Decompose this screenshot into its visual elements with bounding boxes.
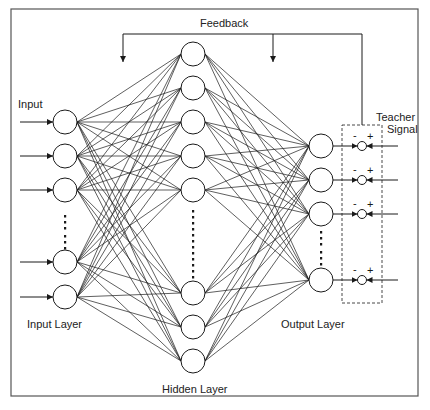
input-node <box>53 285 77 309</box>
output-node <box>309 168 333 192</box>
input-ellipsis <box>64 235 66 238</box>
hidden-ellipsis <box>192 234 194 237</box>
hidden-output-connection <box>205 280 309 293</box>
input-node <box>53 250 77 274</box>
hidden-ellipsis <box>192 270 194 273</box>
output-ellipsis <box>320 231 322 234</box>
hidden-ellipsis <box>192 276 194 279</box>
hidden-ellipsis <box>192 228 194 231</box>
neural-network-diagram: -+-+-+-+ <box>0 0 430 410</box>
input-hidden-connection <box>77 156 181 293</box>
comparator-node <box>358 210 367 219</box>
hidden-node <box>181 42 205 66</box>
hidden-node <box>181 349 205 373</box>
hidden-output-connection <box>205 180 309 190</box>
output-node <box>309 202 333 226</box>
comparator-node <box>358 176 367 185</box>
plus-sign: + <box>367 130 373 142</box>
input-ellipsis <box>64 227 66 230</box>
hidden-output-connection <box>205 190 309 280</box>
input-hidden-connection <box>77 262 181 327</box>
hidden-output-connection <box>205 54 309 146</box>
input-layer-label: Input Layer <box>27 318 82 330</box>
output-ellipsis <box>320 257 322 260</box>
input-ellipsis <box>64 215 66 218</box>
input-hidden-connection <box>77 54 181 297</box>
input-hidden-connection <box>77 88 181 297</box>
input-ellipsis <box>64 247 66 250</box>
input-hidden-connection <box>77 54 181 122</box>
hidden-output-connection <box>205 146 309 156</box>
hidden-ellipsis <box>192 216 194 219</box>
output-ellipsis <box>320 237 322 240</box>
hidden-ellipsis <box>192 222 194 225</box>
minus-sign: - <box>353 129 357 141</box>
hidden-output-connection <box>205 122 309 280</box>
input-label: Input <box>18 98 42 110</box>
output-ellipsis <box>320 263 322 266</box>
hidden-output-connection <box>205 122 309 146</box>
minus-sign: - <box>353 197 357 209</box>
input-node <box>53 144 77 168</box>
output-layer-label: Output Layer <box>281 318 345 330</box>
plus-sign: + <box>367 164 373 176</box>
output-ellipsis <box>320 243 322 246</box>
input-hidden-connection <box>77 54 181 156</box>
output-node <box>309 134 333 158</box>
input-ellipsis <box>64 241 66 244</box>
hidden-node <box>181 178 205 202</box>
comparator-node <box>358 276 367 285</box>
teacher-signal-label-line1: Teacher <box>376 111 415 123</box>
hidden-ellipsis <box>192 264 194 267</box>
input-node <box>53 178 77 202</box>
minus-sign: - <box>353 163 357 175</box>
hidden-ellipsis <box>192 258 194 261</box>
teacher-signal-label-line2: Signal <box>387 123 418 135</box>
output-node <box>309 268 333 292</box>
hidden-node <box>181 281 205 305</box>
input-hidden-connection <box>77 190 181 297</box>
plus-sign: + <box>367 264 373 276</box>
output-ellipsis <box>320 251 322 254</box>
hidden-ellipsis <box>192 252 194 255</box>
plus-sign: + <box>367 198 373 210</box>
outer-border <box>11 9 418 396</box>
hidden-ellipsis <box>192 240 194 243</box>
hidden-ellipsis <box>192 246 194 249</box>
hidden-layer-label: Hidden Layer <box>162 383 227 395</box>
comparator-node <box>358 142 367 151</box>
minus-sign: - <box>353 263 357 275</box>
hidden-output-connection <box>205 54 309 280</box>
input-ellipsis <box>64 221 66 224</box>
hidden-node <box>181 110 205 134</box>
hidden-node <box>181 144 205 168</box>
input-node <box>53 110 77 134</box>
hidden-ellipsis <box>192 210 194 213</box>
hidden-node <box>181 315 205 339</box>
hidden-node <box>181 76 205 100</box>
feedback-label: Feedback <box>200 17 248 29</box>
hidden-output-connection <box>205 156 309 280</box>
input-hidden-connection <box>77 262 181 361</box>
